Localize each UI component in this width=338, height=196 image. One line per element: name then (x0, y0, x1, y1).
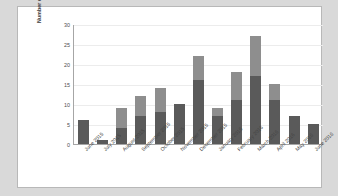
bar-segment-upper (231, 72, 242, 100)
bar-column (78, 25, 89, 144)
bar-segment-lower (78, 120, 89, 144)
bar-segment-upper (193, 56, 204, 80)
y-axis-tick-label: 0 (67, 142, 70, 148)
x-axis-label-slot: October 2015 (154, 146, 165, 196)
x-axis-label-slot: August 2015 (116, 146, 127, 196)
x-axis-label-slot: March 2016 (250, 146, 261, 196)
y-axis-tick-label: 20 (64, 62, 70, 68)
x-axis-label-slot: December 2015 (192, 146, 203, 196)
bar-column (97, 25, 108, 144)
x-axis-label-slot: July 2015 (96, 146, 107, 196)
y-axis-tick-label: 25 (64, 42, 70, 48)
plot-area: 051015202530 (73, 25, 323, 145)
x-axis-label-slot: June 2015 (77, 146, 88, 196)
x-axis-labels: June 2015July 2015August 2015September 2… (73, 146, 323, 196)
x-axis-label-slot: April 2016 (269, 146, 280, 196)
x-axis-label-slot: January 2016 (212, 146, 223, 196)
x-axis-label-slot: November 2015 (173, 146, 184, 196)
bar-segment-upper (116, 108, 127, 128)
bar-segment-upper (269, 84, 280, 100)
x-axis-label-slot: September 2015 (135, 146, 146, 196)
y-axis-tick-label: 10 (64, 102, 70, 108)
bar-column (269, 25, 280, 144)
y-axis-title: Number of samples (34, 0, 44, 43)
x-axis-label-slot: February 2016 (231, 146, 242, 196)
bar-segment-upper (135, 96, 146, 116)
x-axis-label-slot: June 2016 (308, 146, 319, 196)
bar-column (289, 25, 300, 144)
bar-segment-upper (250, 36, 261, 76)
chart-figure: Number of samples 051015202530 June 2015… (17, 6, 322, 188)
y-axis-tick-label: 30 (64, 22, 70, 28)
y-axis-tick-label: 15 (64, 82, 70, 88)
bar-series (74, 25, 323, 144)
x-axis-label-slot: May 2016 (289, 146, 300, 196)
bar-column (308, 25, 319, 144)
bar-segment-upper (155, 88, 166, 112)
bar-segment-upper (212, 108, 223, 116)
bar-column (116, 25, 127, 144)
y-axis-tick-label: 5 (67, 122, 70, 128)
